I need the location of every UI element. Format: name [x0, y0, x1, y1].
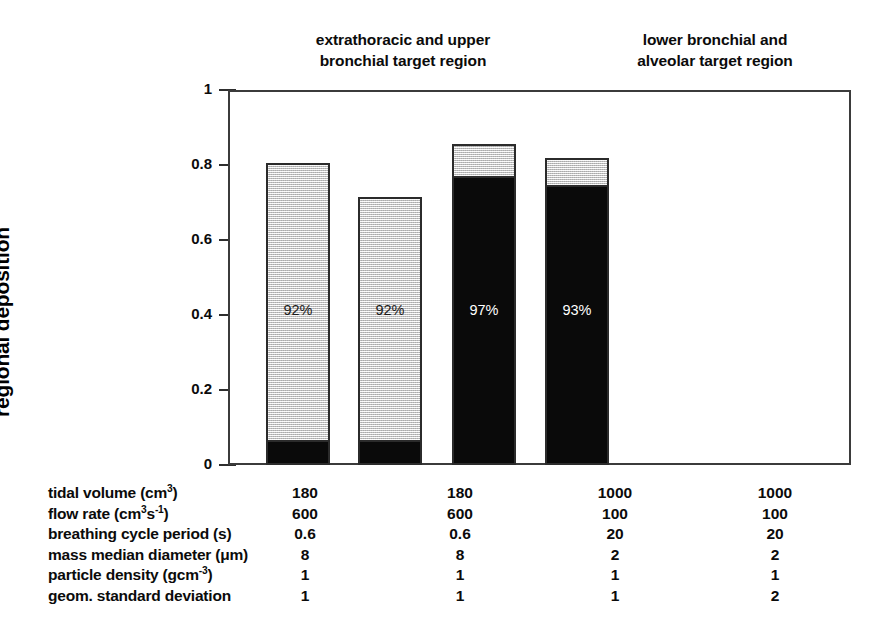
parameter-label-2: breathing cycle period (s)	[48, 525, 231, 543]
parameter-label-0: tidal volume (cm3)	[48, 484, 178, 502]
parameter-value-r2-c2: 20	[560, 525, 670, 543]
parameter-label-5: geom. standard deviation	[48, 587, 231, 605]
parameter-value-r4-c2: 1	[560, 566, 670, 584]
bar-1-dark-segment	[360, 442, 420, 463]
group-header-right: lower bronchial and alveolar target regi…	[570, 30, 860, 72]
parameter-value-r0-c3: 1000	[720, 484, 830, 502]
parameter-value-r3-c3: 2	[720, 546, 830, 564]
parameter-value-r2-c0: 0.6	[250, 525, 360, 543]
parameter-table: tidal volume (cm3)18018010001000flow rat…	[0, 484, 894, 607]
parameter-value-r1-c2: 100	[560, 505, 670, 523]
parameter-row: tidal volume (cm3)18018010001000	[0, 484, 894, 505]
parameter-value-r2-c3: 20	[720, 525, 830, 543]
bar-3-light-segment	[547, 160, 607, 187]
parameter-label-3: mass median diameter (μm)	[48, 546, 248, 564]
parameter-value-r4-c0: 1	[250, 566, 360, 584]
parameter-value-r5-c3: 2	[720, 587, 830, 605]
parameter-row: breathing cycle period (s)0.60.62020	[0, 525, 894, 546]
group-header-right-line1: lower bronchial and	[570, 30, 860, 51]
y-tick-label-4: 0.8	[148, 155, 212, 172]
y-tick-label-3: 0.6	[148, 230, 212, 247]
parameter-value-r0-c2: 1000	[560, 484, 670, 502]
parameter-value-r3-c2: 2	[560, 546, 670, 564]
parameter-value-r5-c2: 1	[560, 587, 670, 605]
group-header-left-line1: extrathoracic and upper	[258, 30, 548, 51]
parameter-value-r3-c1: 8	[405, 546, 515, 564]
parameter-value-r2-c1: 0.6	[405, 525, 515, 543]
parameter-value-r1-c1: 600	[405, 505, 515, 523]
parameter-value-r4-c1: 1	[405, 566, 515, 584]
bar-0-percent-label: 92%	[266, 302, 330, 318]
parameter-row: mass median diameter (μm)8822	[0, 546, 894, 567]
bar-2-dark-segment	[454, 178, 514, 463]
y-tick-label-5: 1	[148, 80, 212, 97]
bar-1[interactable]	[358, 197, 422, 465]
y-tick-label-1: 0.2	[148, 380, 212, 397]
parameter-label-4: particle density (gcm-3)	[48, 566, 213, 584]
bar-1-light-segment	[360, 199, 420, 442]
parameter-value-r3-c0: 8	[250, 546, 360, 564]
y-axis-title: regional deposition	[0, 172, 14, 472]
group-header-left: extrathoracic and upper bronchial target…	[258, 30, 548, 72]
parameter-value-r4-c3: 1	[720, 566, 830, 584]
parameter-value-r1-c0: 600	[250, 505, 360, 523]
parameter-value-r5-c1: 1	[405, 587, 515, 605]
bar-1-percent-label: 92%	[358, 302, 422, 318]
y-tick-label-0: 0	[148, 455, 212, 472]
bar-3-percent-label: 93%	[545, 302, 609, 318]
parameter-value-r5-c0: 1	[250, 587, 360, 605]
bar-2-light-segment	[454, 146, 514, 178]
y-tick-label-2: 0.4	[148, 305, 212, 322]
parameter-value-r0-c0: 180	[250, 484, 360, 502]
group-header-left-line2: bronchial target region	[258, 51, 548, 72]
parameter-row: flow rate (cm3s-1)600600100100	[0, 505, 894, 526]
parameter-value-r1-c3: 100	[720, 505, 830, 523]
parameter-row: geom. standard deviation1112	[0, 587, 894, 608]
bar-0-dark-segment	[268, 442, 328, 463]
parameter-label-1: flow rate (cm3s-1)	[48, 505, 169, 523]
bar-3-dark-segment	[547, 187, 607, 463]
figure-root: extrathoracic and upper bronchial target…	[0, 0, 894, 640]
parameter-value-r0-c1: 180	[405, 484, 515, 502]
parameter-row: particle density (gcm-3)1111	[0, 566, 894, 587]
bar-2-percent-label: 97%	[452, 302, 516, 318]
group-header-right-line2: alveolar target region	[570, 51, 860, 72]
